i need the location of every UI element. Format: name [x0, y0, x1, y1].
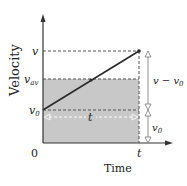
x-axis-arrow-icon [165, 141, 173, 146]
vav-label: vav [24, 73, 38, 87]
y-axis-label: Velocity [7, 43, 22, 97]
delta-v-label: v − v0 [153, 75, 184, 88]
origin-label: 0 [31, 147, 38, 160]
y-axis-arrow-icon [41, 14, 46, 22]
v-label: v [32, 45, 39, 58]
velocity-time-diagram: Velocity Time 0 v vav v0 t t v − v0 v0 [0, 0, 187, 186]
arrowhead-up-icon [145, 110, 151, 116]
v0-bracket-label: v0 [152, 122, 163, 135]
x-axis-label: Time [104, 162, 132, 175]
v0-label: v0 [29, 104, 40, 118]
end-point [137, 49, 141, 53]
mid-point [90, 79, 93, 82]
arrowhead-down-icon [145, 137, 151, 143]
t-axis-mark: t [137, 147, 142, 160]
arrowhead-down-icon [145, 104, 151, 110]
arrowhead-up-icon [145, 51, 151, 57]
interval-t-label: t [88, 111, 93, 124]
